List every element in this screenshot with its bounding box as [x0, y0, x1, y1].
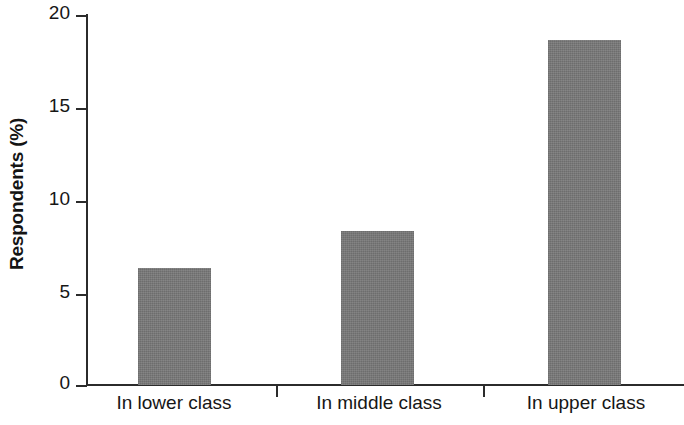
y-tick-mark-10: [76, 201, 87, 203]
bar-in-upper-class: [548, 40, 621, 385]
x-axis-label-in-upper-class: In upper class: [513, 392, 659, 414]
y-tick-mark-15: [76, 108, 87, 110]
bar-chart: Respondents (%) 20 15 10 5 0 In lower cl…: [0, 0, 684, 425]
y-tick-label-5: 5: [22, 281, 70, 303]
y-tick-label-15: 15: [22, 95, 70, 117]
x-axis-label-in-middle-class: In middle class: [303, 392, 455, 414]
y-axis-line: [86, 14, 88, 386]
x-tick-separator-2: [483, 386, 485, 397]
bar-in-lower-class: [138, 268, 211, 385]
y-tick-label-0: 0: [22, 372, 70, 394]
y-tick-label-10: 10: [22, 188, 70, 210]
x-axis-label-in-lower-class: In lower class: [100, 392, 248, 414]
y-tick-mark-0: [76, 385, 87, 387]
y-tick-mark-20: [76, 15, 87, 17]
y-tick-label-20: 20: [22, 2, 70, 24]
bar-in-middle-class: [341, 231, 414, 385]
x-tick-separator-1: [276, 386, 278, 397]
y-tick-mark-5: [76, 294, 87, 296]
